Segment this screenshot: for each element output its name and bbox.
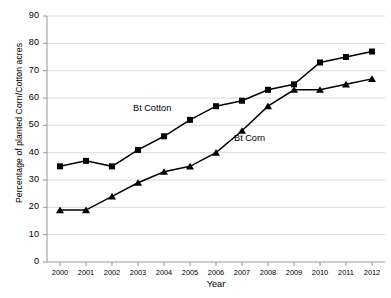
y-tick-label: 70 [11, 66, 39, 75]
x-tick-label: 2006 [203, 269, 229, 277]
data-point-square [239, 98, 245, 104]
y-tick-label: 30 [11, 175, 39, 184]
data-point-square [187, 117, 193, 123]
data-point-square [135, 147, 141, 153]
data-point-square [57, 163, 63, 169]
x-tick-label: 2012 [359, 269, 385, 277]
data-point-square [343, 54, 349, 60]
x-tick-label: 2011 [333, 269, 359, 277]
data-point-square [83, 158, 89, 164]
data-point-square [369, 49, 375, 55]
data-point-square [161, 133, 167, 139]
y-tick-label: 10 [11, 230, 39, 239]
y-tick-label: 40 [11, 148, 39, 157]
data-point-triangle [368, 75, 376, 82]
data-point-triangle [186, 163, 194, 170]
series-annotation-label: Bt Corn [234, 133, 265, 143]
x-tick-label: 2009 [281, 269, 307, 277]
data-point-square [213, 103, 219, 109]
y-tick-label: 90 [11, 11, 39, 20]
y-tick-label: 60 [11, 93, 39, 102]
y-tick-label: 20 [11, 202, 39, 211]
y-tick-label: 80 [11, 38, 39, 47]
data-point-square [265, 87, 271, 93]
x-tick-label: 2010 [307, 269, 333, 277]
axes [43, 16, 385, 266]
chart-container: Percentage of planted Corn/Cotton acres … [0, 0, 391, 298]
x-tick-label: 2004 [151, 269, 177, 277]
chart-canvas [0, 0, 391, 298]
y-tick-label: 0 [11, 257, 39, 266]
series-annotation-label: Bt Cotton [133, 103, 171, 113]
x-tick-label: 2000 [47, 269, 73, 277]
data-point-square [109, 163, 115, 169]
data-point-square [317, 59, 323, 65]
x-tick-label: 2001 [73, 269, 99, 277]
series-line-1 [60, 79, 372, 210]
gridlines [47, 16, 385, 235]
x-tick-label: 2003 [125, 269, 151, 277]
data-point-triangle [108, 193, 116, 200]
x-tick-label: 2007 [229, 269, 255, 277]
x-tick-label: 2002 [99, 269, 125, 277]
x-tick-label: 2005 [177, 269, 203, 277]
x-tick-label: 2008 [255, 269, 281, 277]
y-tick-label: 50 [11, 120, 39, 129]
data-series [56, 49, 376, 214]
